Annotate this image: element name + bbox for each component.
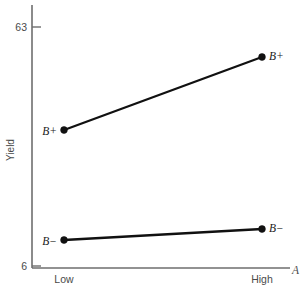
y-axis-title: Yield: [5, 139, 16, 161]
interaction-plot: 63 6 Yield Low High A B+ B+ B− B−: [0, 0, 307, 297]
y-tick-label-bottom: 6: [21, 260, 27, 272]
series-b-plus: B+ B+: [42, 50, 284, 137]
x-tick-label-high: High: [251, 273, 273, 285]
series-b-plus-line: [64, 57, 262, 130]
x-axis-title: A: [291, 264, 300, 276]
series-b-plus-marker-low: [61, 127, 68, 134]
series-b-plus-label-high: B+: [269, 50, 284, 62]
series-b-minus-marker-high: [259, 226, 266, 233]
chart-canvas: 63 6 Yield Low High A B+ B+ B− B−: [0, 0, 307, 297]
series-b-plus-marker-high: [259, 54, 266, 61]
series-b-plus-label-low: B+: [42, 125, 57, 137]
series-b-minus: B− B−: [42, 222, 284, 247]
series-b-minus-label-low: B−: [42, 235, 57, 247]
series-b-minus-label-high: B−: [269, 222, 284, 234]
y-tick-label-top: 63: [15, 21, 27, 33]
series-b-minus-marker-low: [61, 237, 68, 244]
x-tick-label-low: Low: [54, 273, 74, 285]
series-b-minus-line: [64, 229, 262, 240]
